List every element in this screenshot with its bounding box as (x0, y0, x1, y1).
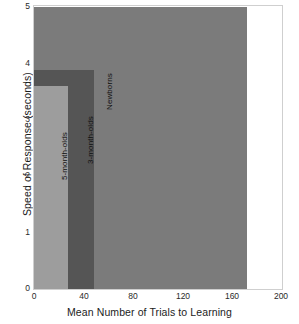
y-tick-label-2: 2 (12, 170, 30, 180)
chart-container: Speed of Response (seconds) 5 4 3 2 1 0 … (0, 0, 299, 324)
y-tick-label-3: 3 (12, 114, 30, 124)
x-tick-label-0: 0 (19, 291, 49, 301)
bar-label-newborns: Newborns (105, 73, 114, 110)
bar-5-month-olds (34, 86, 68, 289)
x-tick-label-200: 200 (266, 291, 296, 301)
plot-area: 5-month-olds 3-month-olds Newborns (34, 6, 282, 289)
x-axis-tick-labels: 0 40 80 120 160 200 (0, 291, 299, 305)
y-tick-label-4: 4 (12, 58, 30, 68)
x-tick-label-120: 120 (168, 291, 198, 301)
x-axis-title: Mean Number of Trials to Learning (0, 306, 299, 318)
x-tick-label-80: 80 (118, 291, 148, 301)
bar-label-3-month-olds: 3-month-olds (86, 116, 95, 164)
y-axis-tick-labels: 5 4 3 2 1 0 (10, 0, 30, 324)
y-tick-label-5: 5 (12, 1, 30, 11)
bar-label-5-month-olds: 5-month-olds (60, 132, 69, 180)
x-tick-label-160: 160 (217, 291, 247, 301)
x-tick-label-40: 40 (69, 291, 99, 301)
y-tick-label-1: 1 (12, 227, 30, 237)
